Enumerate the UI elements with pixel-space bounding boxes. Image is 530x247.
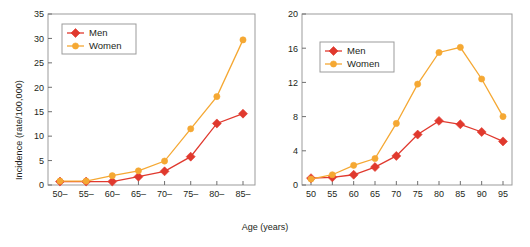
chart-panel-right: Probability (%) 048121620505560657075808… xyxy=(265,0,530,247)
figure-container: Incidence (rate/100,000) 051015202530355… xyxy=(0,0,530,247)
data-point-marker xyxy=(160,167,169,176)
y-tick-label: 0 xyxy=(39,180,44,190)
legend-label-men: Men xyxy=(89,27,107,38)
y-tick-label: 8 xyxy=(293,112,298,122)
x-tick-label: 50– xyxy=(52,189,67,199)
data-point-marker xyxy=(188,126,194,132)
probability-line-chart: 04812162050556065707580859095MenWomen xyxy=(265,0,530,247)
x-tick-label: 75 xyxy=(413,189,423,199)
x-tick-label: 85– xyxy=(235,189,250,199)
legend-label-women: Women xyxy=(347,58,380,69)
x-tick-label: 85 xyxy=(455,189,465,199)
y-tick-label: 20 xyxy=(34,83,44,93)
data-point-marker xyxy=(436,49,442,55)
x-tick-label: 80 xyxy=(434,189,444,199)
data-point-marker xyxy=(435,116,444,125)
legend-label-men: Men xyxy=(347,45,365,56)
data-point-marker xyxy=(83,178,89,184)
data-point-marker xyxy=(477,127,486,136)
y-tick-label: 5 xyxy=(39,156,44,166)
chart-legend: MenWomen xyxy=(320,42,394,72)
data-point-marker xyxy=(57,178,63,184)
x-tick-label: 50 xyxy=(306,189,316,199)
y-tick-label: 35 xyxy=(34,9,44,19)
y-tick-label: 0 xyxy=(293,180,298,190)
data-point-marker xyxy=(479,76,485,82)
x-tick-label: 60– xyxy=(105,189,120,199)
y-tick-label: 30 xyxy=(34,34,44,44)
x-tick-label: 95 xyxy=(498,189,508,199)
x-tick-label: 60 xyxy=(349,189,359,199)
data-point-marker xyxy=(499,137,508,146)
data-point-marker xyxy=(371,163,380,172)
data-point-marker xyxy=(349,170,358,179)
chart-panel-left: Incidence (rate/100,000) 051015202530355… xyxy=(0,0,265,247)
series-women xyxy=(57,37,246,184)
x-tick-label: 70– xyxy=(157,189,172,199)
incidence-line-chart: 0510152025303550–55–60–65–70–75–80–85–Me… xyxy=(0,0,265,247)
y-tick-label: 10 xyxy=(34,131,44,141)
series-line xyxy=(60,40,243,181)
data-point-marker xyxy=(372,155,378,161)
x-tick-label: 75– xyxy=(183,189,198,199)
x-axis-label-shared: Age (years) xyxy=(0,222,530,232)
y-tick-label: 12 xyxy=(288,78,298,88)
x-tick-label: 90 xyxy=(477,189,487,199)
data-point-marker xyxy=(239,109,248,118)
x-tick-label: 80– xyxy=(209,189,224,199)
data-point-marker xyxy=(240,37,246,43)
series-men xyxy=(56,109,248,186)
y-tick-label: 25 xyxy=(34,58,44,68)
legend-label-women: Women xyxy=(89,40,122,51)
y-tick-label: 15 xyxy=(34,107,44,117)
x-tick-label: 65– xyxy=(131,189,146,199)
data-point-marker xyxy=(135,168,141,174)
data-point-marker xyxy=(330,61,336,67)
x-tick-label: 65 xyxy=(370,189,380,199)
data-point-marker xyxy=(415,81,421,87)
data-point-marker xyxy=(72,43,78,49)
chart-legend: MenWomen xyxy=(62,24,136,54)
data-point-marker xyxy=(457,44,463,50)
y-axis-label-left: Incidence (rate/100,000) xyxy=(14,80,24,180)
data-point-marker xyxy=(393,120,399,126)
data-point-marker xyxy=(351,162,357,168)
data-point-marker xyxy=(214,93,220,99)
data-point-marker xyxy=(109,173,115,179)
x-tick-label: 55 xyxy=(327,189,337,199)
y-tick-label: 16 xyxy=(288,44,298,54)
y-tick-label: 20 xyxy=(288,9,298,19)
data-point-marker xyxy=(308,176,314,182)
data-point-marker xyxy=(161,158,167,164)
data-point-marker xyxy=(329,172,335,178)
x-tick-label: 70 xyxy=(391,189,401,199)
y-tick-label: 4 xyxy=(293,146,298,156)
x-tick-label: 55– xyxy=(79,189,94,199)
data-point-marker xyxy=(500,114,506,120)
series-line xyxy=(311,121,503,178)
plot-frame xyxy=(302,14,512,185)
data-point-marker xyxy=(456,120,465,129)
